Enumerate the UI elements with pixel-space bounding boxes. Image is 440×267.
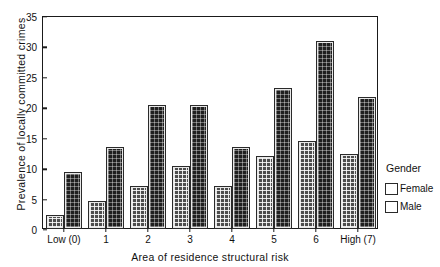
bar-male: [275, 89, 292, 228]
bars-layer: [43, 17, 377, 228]
bar-group: [253, 17, 295, 228]
bar-female: [341, 155, 358, 228]
y-axis-title: Prevalence of locally committed crimes: [15, 0, 27, 229]
bar-male: [65, 173, 82, 228]
bar-male: [191, 106, 208, 228]
bar-female: [131, 187, 148, 228]
y-tick-label: 0: [31, 225, 43, 236]
bar-male: [107, 148, 124, 228]
y-tick-label: 15: [26, 133, 43, 144]
bar-male: [149, 106, 166, 228]
y-tick-label: 35: [26, 12, 43, 23]
bar-female: [299, 142, 316, 228]
legend-swatch-female: [386, 184, 397, 194]
bar-group: [337, 17, 379, 228]
bar-male: [317, 42, 334, 228]
legend-label-male: Male: [400, 201, 422, 212]
legend: Gender Female Male: [386, 162, 440, 219]
y-tick-label: 10: [26, 164, 43, 175]
x-tick-mark: [315, 228, 316, 232]
legend-item-male: Male: [386, 201, 440, 212]
bar-group: [43, 17, 85, 228]
bar-female: [173, 167, 190, 228]
plot-area: 05101520253035 Low (0)123456High (7): [42, 16, 378, 229]
x-tick-mark: [105, 228, 106, 232]
x-tick-mark: [231, 228, 232, 232]
bar-group: [127, 17, 169, 228]
x-tick-label: 2: [145, 234, 151, 245]
y-tick-label: 20: [26, 103, 43, 114]
legend-swatch-male: [386, 202, 397, 212]
bar-group: [295, 17, 337, 228]
x-tick-mark: [357, 228, 358, 232]
bar-female: [47, 216, 64, 228]
x-axis-title: Area of residence structural risk: [42, 251, 378, 263]
x-tick-mark: [147, 228, 148, 232]
bar-group: [169, 17, 211, 228]
x-tick-label: 1: [103, 234, 109, 245]
x-tick-label: 5: [271, 234, 277, 245]
x-tick-label: 3: [187, 234, 193, 245]
y-tick-label: 5: [31, 194, 43, 205]
legend-item-female: Female: [386, 183, 440, 194]
bar-female: [89, 202, 106, 228]
y-tick-label: 30: [26, 42, 43, 53]
x-tick-label: 4: [229, 234, 235, 245]
bar-group: [211, 17, 253, 228]
bar-chart: Prevalence of locally committed crimes 0…: [0, 0, 440, 267]
y-tick-mark: [43, 229, 47, 230]
x-tick-label: Low (0): [47, 234, 80, 245]
x-tick-mark: [273, 228, 274, 232]
bar-group: [85, 17, 127, 228]
x-tick-mark: [63, 228, 64, 232]
x-tick-label: High (7): [340, 234, 376, 245]
bar-male: [359, 98, 376, 228]
bar-female: [257, 157, 274, 228]
bar-male: [233, 148, 250, 228]
bar-female: [215, 187, 232, 228]
x-tick-mark: [189, 228, 190, 232]
legend-title: Gender: [386, 162, 440, 174]
y-tick-label: 25: [26, 72, 43, 83]
x-tick-label: 6: [313, 234, 319, 245]
legend-label-female: Female: [400, 183, 433, 194]
